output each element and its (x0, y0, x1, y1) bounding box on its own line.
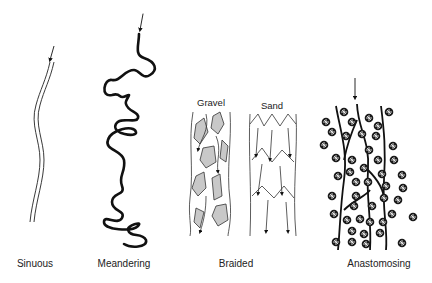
meandering-label: Meandering (98, 258, 151, 269)
sinuous-label: Sinuous (17, 258, 53, 269)
braided-label: Braided (219, 258, 253, 269)
gravel-sublabel: Gravel (197, 97, 225, 108)
sinuous-channel (30, 46, 54, 222)
anastomosing-label: Anastomosing (347, 258, 410, 269)
meandering-channel (104, 14, 155, 247)
braided-sand-channel (249, 114, 296, 236)
braided-gravel-channel (189, 112, 230, 236)
river-patterns-diagram (0, 0, 432, 283)
sand-sublabel: Sand (261, 100, 283, 111)
anastomosing-channels (320, 78, 418, 250)
